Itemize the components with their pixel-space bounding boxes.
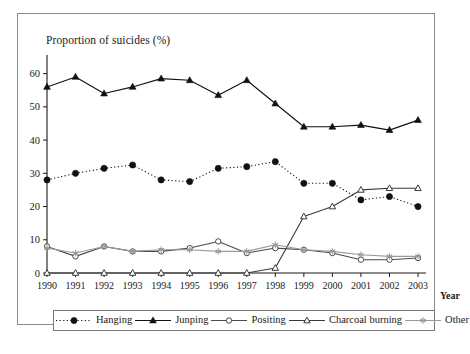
y-tick-label: 20	[30, 201, 41, 212]
x-tick-label: 1990	[37, 280, 57, 291]
data-point	[44, 177, 50, 183]
data-point	[272, 159, 278, 165]
legend-swatch-open-circle	[210, 315, 248, 326]
legend-label: Other	[445, 315, 469, 326]
x-axis-ticks: 1990199119921993199419951996199719981999…	[37, 273, 428, 291]
series-line	[47, 245, 418, 257]
legend-label: Positing	[251, 315, 285, 326]
plot-frame: Proportion of suicides (%) 0102030405060…	[17, 13, 435, 325]
data-point	[300, 123, 307, 129]
x-tick-label: 1991	[66, 280, 86, 291]
data-point	[72, 170, 78, 176]
data-point	[329, 203, 335, 209]
series-junping	[44, 73, 422, 132]
x-tick-label: 1993	[123, 280, 143, 291]
data-point	[358, 197, 364, 203]
data-point	[415, 203, 421, 209]
data-point	[244, 164, 250, 170]
x-axis-name: Year	[440, 290, 460, 301]
y-tick-label: 0	[35, 268, 40, 279]
data-point	[329, 180, 335, 186]
data-point	[158, 75, 165, 81]
legend-label: Junping	[175, 315, 208, 326]
x-tick-label: 1996	[208, 280, 228, 291]
data-point	[358, 122, 365, 128]
data-point	[130, 162, 136, 168]
data-point	[187, 179, 193, 185]
legend-swatch-filled-triangle	[134, 315, 172, 326]
legend-swatch-filled-circle	[55, 315, 93, 326]
data-point	[415, 117, 422, 123]
legend-label: Charcoal burning	[329, 315, 402, 326]
data-point	[158, 177, 164, 183]
series-line	[47, 77, 418, 130]
data-point	[215, 92, 222, 98]
x-tick-label: 2000	[322, 280, 342, 291]
legend-item-junping[interactable]: Junping	[133, 315, 209, 326]
axes	[47, 55, 426, 273]
x-tick-label: 1997	[237, 280, 257, 291]
data-point	[72, 73, 79, 79]
data-point	[301, 180, 307, 186]
x-tick-label: 1995	[180, 280, 200, 291]
x-tick-label: 2001	[351, 280, 371, 291]
chart-legend: HangingJunpingPositingCharcoal burningOt…	[53, 310, 435, 331]
series-other	[44, 242, 421, 260]
legend-swatch-open-triangle	[288, 315, 326, 326]
series-positing	[44, 239, 420, 263]
legend-label: Hanging	[96, 315, 132, 326]
legend-item-charcoal-burning[interactable]: Charcoal burning	[287, 315, 403, 326]
x-tick-label: 1994	[151, 280, 171, 291]
y-tick-label: 10	[30, 234, 41, 245]
y-tick-label: 50	[30, 101, 41, 112]
legend-item-hanging[interactable]: Hanging	[54, 315, 133, 326]
legend-swatch-asterisk	[404, 315, 442, 326]
y-tick-label: 40	[30, 135, 41, 146]
x-tick-label: 2003	[408, 280, 428, 291]
data-point	[386, 193, 392, 199]
data-point	[216, 239, 221, 244]
data-point	[272, 100, 279, 106]
data-point	[101, 165, 107, 171]
x-tick-label: 2002	[379, 280, 399, 291]
legend-item-positing[interactable]: Positing	[209, 315, 286, 326]
y-tick-label: 60	[30, 68, 41, 79]
chart-plot-area: 0102030405060199019911992199319941995199…	[18, 14, 434, 324]
x-tick-label: 1998	[265, 280, 285, 291]
x-tick-label: 1992	[94, 280, 114, 291]
data-point	[243, 77, 250, 83]
data-point	[272, 265, 278, 271]
x-tick-label: 1999	[294, 280, 314, 291]
legend-item-other[interactable]: Other	[403, 315, 470, 326]
series-charcoal-burning	[44, 185, 421, 275]
series-hanging	[44, 159, 421, 210]
y-tick-label: 30	[30, 168, 41, 179]
data-point	[215, 165, 221, 171]
